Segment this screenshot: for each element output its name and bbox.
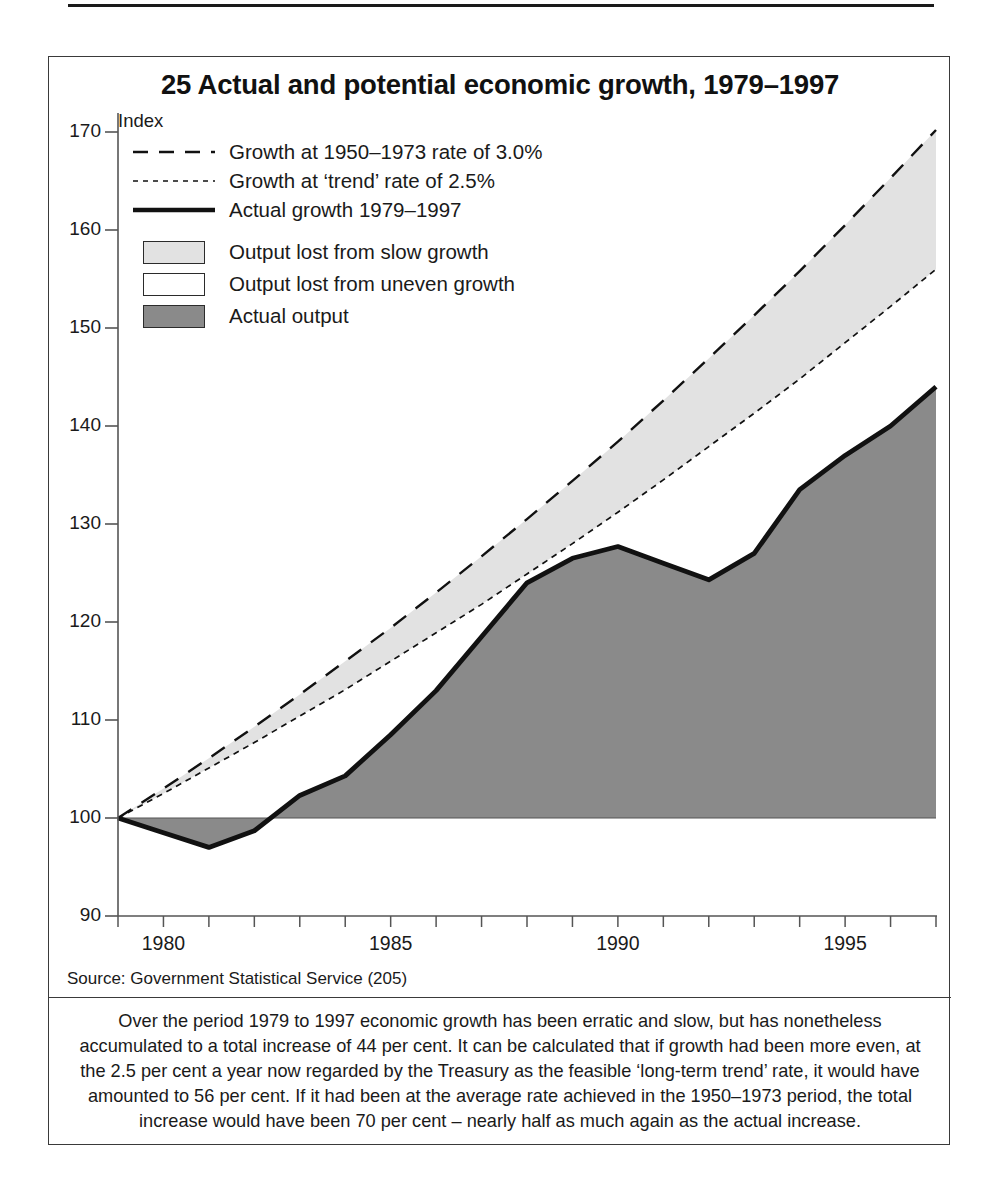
legend-item-actual-output: Actual output bbox=[127, 300, 597, 332]
x-axis-tick-label: 1980 bbox=[118, 932, 208, 955]
running-head: Britain's Future: Issues and Choices bbox=[0, 0, 999, 18]
legend-label-trend-rate: Growth at ‘trend’ rate of 2.5% bbox=[221, 169, 495, 193]
legend-label-actual-growth: Actual growth 1979–1997 bbox=[221, 198, 462, 222]
note-separator bbox=[49, 997, 951, 998]
dark-gray-swatch-icon bbox=[127, 300, 221, 332]
y-axis-tick-label: 170 bbox=[45, 120, 101, 142]
legend-label-growth-1950-1973: Growth at 1950–1973 rate of 3.0% bbox=[221, 140, 542, 164]
y-axis-tick-label: 120 bbox=[45, 610, 101, 632]
legend-item-output-lost-uneven: Output lost from uneven growth bbox=[127, 268, 597, 300]
light-gray-swatch-icon bbox=[127, 236, 221, 268]
solid-thick-line-icon bbox=[127, 195, 221, 224]
x-axis-tick-label: 1995 bbox=[800, 932, 890, 955]
y-axis-tick-label: 110 bbox=[45, 708, 101, 730]
y-axis-tick-label: 100 bbox=[45, 806, 101, 828]
running-head-rule bbox=[68, 4, 934, 7]
legend-item-actual-growth: Actual growth 1979–1997 bbox=[127, 195, 597, 224]
dashed-long-line-icon bbox=[127, 137, 221, 166]
y-axis-tick-label: 130 bbox=[45, 512, 101, 534]
y-axis-tick-label: 150 bbox=[45, 316, 101, 338]
legend-item-trend-rate: Growth at ‘trend’ rate of 2.5% bbox=[127, 166, 597, 195]
x-axis-tick-label: 1985 bbox=[346, 932, 436, 955]
dotted-fine-line-icon bbox=[127, 166, 221, 195]
y-axis-tick-label: 160 bbox=[45, 218, 101, 240]
source-line: Source: Government Statistical Service (… bbox=[67, 969, 407, 989]
legend-item-output-lost-slow: Output lost from slow growth bbox=[127, 236, 597, 268]
legend-label-actual-output: Actual output bbox=[221, 304, 349, 328]
white-swatch-icon bbox=[127, 268, 221, 300]
y-axis-tick-label: 140 bbox=[45, 414, 101, 436]
legend-label-output-lost-uneven: Output lost from uneven growth bbox=[221, 272, 515, 296]
x-axis-tick-label: 1990 bbox=[573, 932, 663, 955]
y-axis-tick-label: 90 bbox=[45, 904, 101, 926]
figure-note: Over the period 1979 to 1997 economic gr… bbox=[75, 1009, 925, 1134]
legend-item-growth-1950-1973: Growth at 1950–1973 rate of 3.0% bbox=[127, 137, 597, 166]
figure-container: 25 Actual and potential economic growth,… bbox=[48, 56, 950, 1145]
legend-spacer bbox=[127, 224, 597, 236]
y-axis-title: Index bbox=[118, 110, 163, 132]
chart-legend: Growth at 1950–1973 rate of 3.0% Growth … bbox=[127, 137, 597, 332]
legend-label-output-lost-slow: Output lost from slow growth bbox=[221, 240, 489, 264]
